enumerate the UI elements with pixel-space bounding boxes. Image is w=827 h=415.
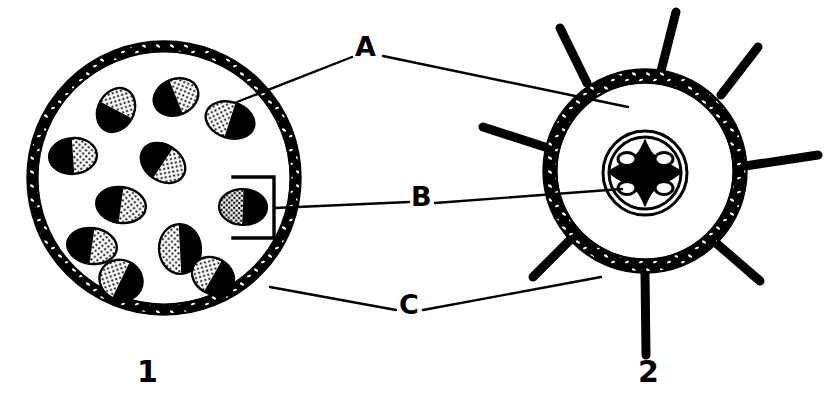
root-hair	[721, 47, 758, 95]
callout-label-b: B	[411, 183, 432, 210]
root-hair	[645, 272, 646, 355]
diagram-canvas: A B C 1 2	[0, 0, 827, 415]
figure2-stele	[603, 131, 687, 215]
root-hair	[483, 127, 548, 148]
root-hair	[533, 237, 573, 277]
callout-label-c: C	[399, 291, 419, 318]
phloem-group	[655, 153, 673, 166]
figure-number-2: 2	[638, 357, 659, 387]
figure-2-group	[483, 12, 818, 355]
root-hair	[745, 155, 818, 166]
leader-line-c-left	[270, 287, 396, 310]
figure-1-group	[28, 42, 301, 315]
root-hair	[716, 243, 760, 281]
phloem-group	[618, 153, 636, 166]
figure-number-1: 1	[137, 357, 158, 387]
vascular-bundle-bracketed	[218, 188, 267, 226]
leader-line-c-right	[423, 277, 601, 310]
callout-label-a: A	[355, 33, 376, 60]
leader-line-a-right	[383, 56, 628, 107]
root-hair	[661, 12, 676, 71]
root-hair	[560, 28, 587, 83]
phloem-group	[655, 182, 673, 195]
